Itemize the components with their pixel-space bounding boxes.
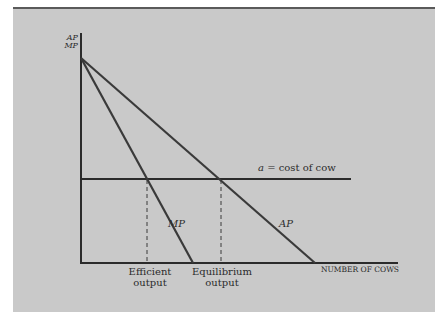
cost-label: a = cost of cow: [258, 162, 336, 173]
equilibrium-label-line2: output: [205, 277, 238, 288]
ap-line: [81, 58, 315, 263]
efficient-label-line1: Efficient: [129, 266, 172, 277]
equilibrium-label-line1: Equilibrium: [192, 266, 253, 277]
x-axis-label: NUMBER OF COWS: [321, 265, 399, 274]
ap-label: AP: [278, 218, 293, 229]
efficient-label-line2: output: [133, 277, 166, 288]
chart-svg: AP MP a = cost of cow MP AP Efficient ou…: [0, 0, 447, 312]
y-label-mp: MP: [63, 41, 78, 50]
mp-line: [81, 58, 193, 263]
mp-label: MP: [167, 218, 185, 229]
